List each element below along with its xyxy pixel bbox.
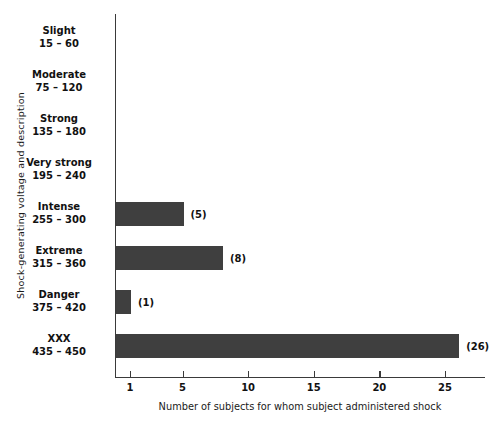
category-label: Intense255 – 300: [10, 192, 108, 236]
category-name: Moderate: [32, 69, 86, 82]
category-voltage-range: 15 – 60: [39, 38, 79, 51]
x-tick-label: 10: [228, 382, 268, 393]
category-voltage-range: 315 – 360: [32, 258, 86, 271]
category-name: Very strong: [26, 157, 92, 170]
bar-row: XXX435 – 450(26): [0, 324, 501, 368]
category-voltage-range: 195 – 240: [32, 170, 86, 183]
category-label: Very strong195 – 240: [10, 148, 108, 192]
category-voltage-range: 375 – 420: [32, 302, 86, 315]
category-label: Extreme315 – 360: [10, 236, 108, 280]
bar-rows: Slight15 – 60Moderate75 – 120Strong135 –…: [0, 14, 501, 377]
category-voltage-range: 75 – 120: [36, 82, 83, 95]
category-name: Slight: [42, 25, 75, 38]
category-name: Strong: [40, 113, 78, 126]
x-tick-mark: [183, 371, 184, 378]
bar-row: Danger375 – 420(1): [0, 280, 501, 324]
bar-row: Extreme315 – 360(8): [0, 236, 501, 280]
x-tick-mark: [379, 371, 380, 378]
bar-row: Strong135 – 180: [0, 104, 501, 148]
bar-value-label: (5): [191, 202, 207, 226]
category-voltage-range: 255 – 300: [32, 214, 86, 227]
x-tick-mark: [445, 371, 446, 378]
bar-row: Moderate75 – 120: [0, 60, 501, 104]
x-tick-mark: [314, 371, 315, 378]
category-label: Slight15 – 60: [10, 16, 108, 60]
category-voltage-range: 435 – 450: [32, 346, 86, 359]
category-label: Strong135 – 180: [10, 104, 108, 148]
x-tick-label: 20: [359, 382, 399, 393]
bar-value-label: (26): [466, 334, 489, 358]
x-tick-mark: [130, 371, 131, 378]
category-label: Moderate75 – 120: [10, 60, 108, 104]
x-tick-label: 15: [294, 382, 334, 393]
x-tick-mark: [248, 371, 249, 378]
bar: [116, 290, 131, 314]
bar-chart: Shock-generating voltage and description…: [0, 0, 501, 431]
bar-row: Intense255 – 300(5): [0, 192, 501, 236]
category-name: Extreme: [36, 245, 83, 258]
bar-value-label: (1): [138, 290, 154, 314]
bar: [116, 334, 459, 358]
category-label: XXX435 – 450: [10, 324, 108, 368]
bar: [116, 202, 184, 226]
bar: [116, 246, 223, 270]
x-axis-title: Number of subjects for whom subject admi…: [115, 401, 485, 412]
category-name: Intense: [38, 201, 80, 214]
category-voltage-range: 135 – 180: [32, 126, 86, 139]
x-tick-label: 5: [163, 382, 203, 393]
x-tick-label: 25: [425, 382, 465, 393]
bar-value-label: (8): [230, 246, 246, 270]
category-name: XXX: [47, 333, 70, 346]
bar-row: Slight15 – 60: [0, 16, 501, 60]
bar-row: Very strong195 – 240: [0, 148, 501, 192]
x-tick-label: 1: [110, 382, 150, 393]
category-label: Danger375 – 420: [10, 280, 108, 324]
category-name: Danger: [38, 289, 79, 302]
